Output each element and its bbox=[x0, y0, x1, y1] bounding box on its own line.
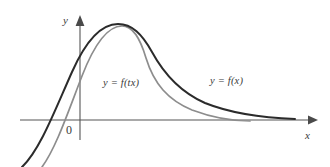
origin-label: 0 bbox=[66, 124, 72, 136]
y-axis-label: y bbox=[63, 15, 68, 26]
curve-label-f-of-x: y = f(x) bbox=[210, 76, 243, 87]
curve-f-of-x bbox=[22, 24, 295, 167]
y-axis-arrowhead bbox=[76, 15, 85, 26]
function-scaling-diagram: y x 0 y = f(tx) y = f(x) bbox=[0, 0, 330, 167]
x-axis-arrowhead bbox=[308, 116, 318, 125]
diagram-canvas bbox=[0, 0, 330, 167]
x-axis-label: x bbox=[305, 130, 310, 141]
curve-f-of-tx bbox=[42, 26, 250, 167]
curve-label-f-of-tx: y = f(tx) bbox=[103, 78, 139, 89]
